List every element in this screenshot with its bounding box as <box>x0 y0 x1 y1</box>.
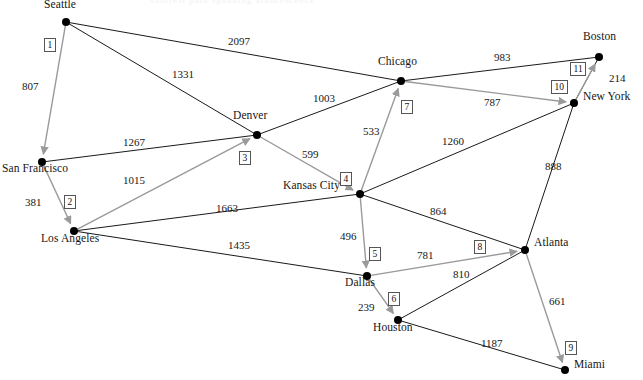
tree-edge <box>405 82 566 102</box>
tree-edge <box>44 166 71 224</box>
graph-figure: shortest path spanning arborescence Seat… <box>0 0 643 380</box>
graph-edge <box>45 135 254 161</box>
graph-node-denver[interactable] <box>253 131 261 139</box>
nodes-group <box>38 18 603 374</box>
graph-edge <box>260 82 398 134</box>
graph-node-atlanta[interactable] <box>521 246 529 254</box>
tree-edge <box>576 64 595 99</box>
tree-edge <box>260 137 353 190</box>
graph-edge <box>363 195 522 249</box>
graph-node-miami[interactable] <box>561 366 569 374</box>
tree-edge <box>360 198 366 268</box>
graph-node-seattle[interactable] <box>62 18 70 26</box>
graph-edge <box>404 57 596 80</box>
graph-node-new_york[interactable] <box>570 99 578 107</box>
graph-node-dallas[interactable] <box>363 272 371 280</box>
graph-node-houston[interactable] <box>394 316 402 324</box>
graph-canvas <box>0 0 643 380</box>
graph-node-boston[interactable] <box>595 53 603 61</box>
graph-node-los_angeles[interactable] <box>70 227 78 235</box>
graph-node-chicago[interactable] <box>397 77 405 85</box>
graph-edge <box>363 104 571 193</box>
graph-edge <box>526 106 573 247</box>
tree-edge <box>369 279 393 313</box>
tree-edge <box>78 139 250 229</box>
graph-edge <box>77 194 357 230</box>
graph-node-kansas_city[interactable] <box>356 190 364 198</box>
tree-edge <box>43 26 65 154</box>
graph-edge <box>401 321 562 369</box>
graph-edge <box>69 24 255 134</box>
edges-group <box>43 23 597 370</box>
tree-edge <box>361 89 398 191</box>
tree-edge <box>371 251 517 275</box>
graph-edge <box>69 23 398 81</box>
graph-node-san_francisco[interactable] <box>38 158 46 166</box>
tree-edge <box>526 254 562 363</box>
graph-edge <box>77 231 364 275</box>
graph-edge <box>401 251 523 318</box>
